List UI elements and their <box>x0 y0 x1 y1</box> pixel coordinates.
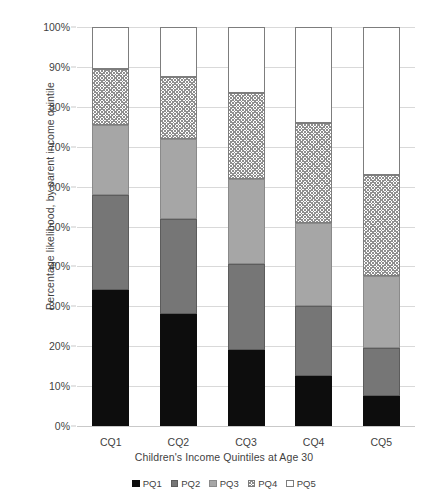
y-tick-label-10%: 10% <box>49 380 70 392</box>
legend-label-PQ3: PQ3 <box>220 478 239 489</box>
y-tick-label-70%: 70% <box>49 141 70 153</box>
bar-group-CQ5[interactable]: CQ5 <box>363 27 400 426</box>
bar-segment-CQ3-PQ3[interactable] <box>228 179 265 265</box>
bar-stack <box>228 27 265 426</box>
y-tick-mark <box>71 66 76 67</box>
bar-segment-CQ2-PQ1[interactable] <box>160 314 197 426</box>
y-tick-mark <box>71 226 76 227</box>
y-tick-mark <box>71 426 76 427</box>
y-tick-label-100%: 100% <box>43 21 70 33</box>
y-tick-mark <box>71 386 76 387</box>
bar-group-CQ1[interactable]: CQ1 <box>92 27 129 426</box>
x-tick-label-CQ1: CQ1 <box>92 436 129 448</box>
bar-segment-CQ4-PQ3[interactable] <box>295 223 332 307</box>
y-tick-label-20%: 20% <box>49 340 70 352</box>
x-tick-label-CQ2: CQ2 <box>160 436 197 448</box>
legend-swatch-PQ4 <box>248 480 256 488</box>
legend-swatch-PQ5 <box>286 480 294 488</box>
y-tick-mark <box>71 346 76 347</box>
bar-stack <box>92 27 129 426</box>
bar-stack <box>363 27 400 426</box>
legend-label-PQ2: PQ2 <box>181 478 200 489</box>
y-tick-mark <box>71 27 76 28</box>
y-tick-label-60%: 60% <box>49 181 70 193</box>
bar-segment-CQ5-PQ5[interactable] <box>363 27 400 175</box>
bar-stack <box>160 27 197 426</box>
bar-segment-CQ4-PQ4[interactable] <box>295 123 332 223</box>
bar-segment-CQ4-PQ2[interactable] <box>295 306 332 376</box>
bar-segment-CQ2-PQ5[interactable] <box>160 27 197 77</box>
y-tick-label-80%: 80% <box>49 101 70 113</box>
bar-group-CQ3[interactable]: CQ3 <box>228 27 265 426</box>
y-tick-mark <box>71 106 76 107</box>
y-axis-title: Percentage likelihood, by parent income … <box>44 0 56 396</box>
bar-segment-CQ5-PQ1[interactable] <box>363 396 400 426</box>
legend-item-PQ2[interactable]: PQ2 <box>171 478 201 489</box>
stacked-bar-chart: Percentage likelihood, by parent income … <box>0 0 448 496</box>
x-tick-label-CQ4: CQ4 <box>295 436 332 448</box>
y-tick-label-50%: 50% <box>49 221 70 233</box>
x-tick-label-CQ5: CQ5 <box>363 436 400 448</box>
bar-segment-CQ1-PQ3[interactable] <box>92 125 129 195</box>
y-tick-mark <box>71 266 76 267</box>
legend-label-PQ1: PQ1 <box>143 478 162 489</box>
legend-item-PQ5[interactable]: PQ5 <box>286 478 316 489</box>
y-tick-mark <box>71 186 76 187</box>
bar-group-CQ2[interactable]: CQ2 <box>160 27 197 426</box>
legend-item-PQ1[interactable]: PQ1 <box>132 478 162 489</box>
plot-area: 0%10%20%30%40%50%60%70%80%90%100%CQ1CQ2C… <box>77 27 415 426</box>
x-axis-title: Children's Income Quintiles at Age 30 <box>0 451 448 463</box>
bar-segment-CQ1-PQ5[interactable] <box>92 27 129 69</box>
y-tick-label-0%: 0% <box>55 420 70 432</box>
bar-segment-CQ3-PQ4[interactable] <box>228 93 265 179</box>
bar-segment-CQ4-PQ1[interactable] <box>295 376 332 426</box>
bar-segment-CQ2-PQ2[interactable] <box>160 219 197 315</box>
legend-item-PQ4[interactable]: PQ4 <box>248 478 278 489</box>
bar-stack <box>295 27 332 426</box>
bar-segment-CQ3-PQ1[interactable] <box>228 350 265 426</box>
bar-group-CQ4[interactable]: CQ4 <box>295 27 332 426</box>
bar-segment-CQ5-PQ3[interactable] <box>363 276 400 348</box>
bar-segment-CQ2-PQ3[interactable] <box>160 139 197 219</box>
legend-item-PQ3[interactable]: PQ3 <box>209 478 239 489</box>
legend-swatch-PQ1 <box>132 480 140 488</box>
legend-label-PQ4: PQ4 <box>258 478 277 489</box>
gridline-0% <box>77 426 415 427</box>
y-tick-label-90%: 90% <box>49 61 70 73</box>
bar-segment-CQ5-PQ4[interactable] <box>363 175 400 277</box>
y-tick-mark <box>71 306 76 307</box>
legend-label-PQ5: PQ5 <box>297 478 316 489</box>
bar-segment-CQ3-PQ5[interactable] <box>228 27 265 93</box>
y-tick-label-30%: 30% <box>49 300 70 312</box>
bar-segment-CQ5-PQ2[interactable] <box>363 348 400 396</box>
bar-segment-CQ1-PQ1[interactable] <box>92 290 129 426</box>
y-tick-mark <box>71 146 76 147</box>
legend-swatch-PQ3 <box>209 480 217 488</box>
x-tick-label-CQ3: CQ3 <box>228 436 265 448</box>
chart-legend: PQ1PQ2PQ3PQ4PQ5 <box>0 478 448 489</box>
y-tick-label-40%: 40% <box>49 260 70 272</box>
bar-segment-CQ1-PQ2[interactable] <box>92 195 129 291</box>
bar-segment-CQ2-PQ4[interactable] <box>160 77 197 139</box>
bar-segment-CQ1-PQ4[interactable] <box>92 69 129 125</box>
bar-segment-CQ3-PQ2[interactable] <box>228 264 265 350</box>
bar-segment-CQ4-PQ5[interactable] <box>295 27 332 123</box>
legend-swatch-PQ2 <box>171 480 179 488</box>
